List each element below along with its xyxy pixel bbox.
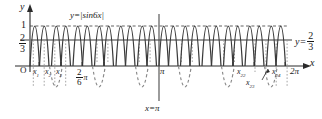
x-tick-two-pi: 2π bbox=[290, 67, 299, 76]
x-tick-x24: x24 bbox=[272, 68, 281, 79]
x-tick-x2-sub: 2 bbox=[49, 73, 51, 78]
graph-canvas bbox=[0, 0, 322, 119]
hline-equation-fraction: 2 3 bbox=[307, 31, 314, 52]
abs-sine-curve bbox=[30, 26, 286, 66]
hline-equation-label: y= 2 3 bbox=[295, 31, 314, 52]
two-sixths-fraction: 2 6 bbox=[76, 68, 83, 87]
y-tick-two-thirds-denominator: 3 bbox=[19, 44, 26, 54]
x-tick-x1: x1 bbox=[33, 68, 39, 79]
x-tick-x1-sub: 1 bbox=[37, 73, 39, 78]
y-tick-one: 1 bbox=[21, 20, 26, 30]
x-tick-x3: x3 bbox=[56, 68, 62, 79]
y-axis-label: y bbox=[20, 2, 24, 12]
y-tick-two-thirds: 2 3 bbox=[19, 33, 26, 54]
vline-equation-label: x=π bbox=[145, 104, 160, 113]
x-tick-x2: x2 bbox=[45, 68, 51, 79]
x-tick-pi: π bbox=[160, 67, 165, 76]
x-tick-x23: x23 bbox=[246, 79, 255, 90]
origin-label: O bbox=[20, 66, 27, 75]
x-tick-x3-sub: 3 bbox=[60, 73, 62, 78]
x-tick-x23-sub: 23 bbox=[250, 84, 255, 89]
hline-denominator: 3 bbox=[307, 42, 314, 52]
y-axis-arrowhead bbox=[27, 4, 33, 12]
x-axis-label: x bbox=[310, 58, 314, 68]
x-tick-x22: x22 bbox=[237, 68, 246, 79]
x-tick-x22-sub: 22 bbox=[241, 73, 246, 78]
two-sixths-denominator: 6 bbox=[76, 78, 83, 87]
x-tick-x24-sub: 24 bbox=[276, 73, 281, 78]
curve-equation-label: y=|sin6x| bbox=[70, 11, 104, 20]
hline-equation-lhs: y= bbox=[295, 37, 306, 47]
x-tick-two-sixths-pi: 2 6 π bbox=[76, 68, 88, 87]
two-sixths-pi-suffix: π bbox=[84, 74, 88, 82]
